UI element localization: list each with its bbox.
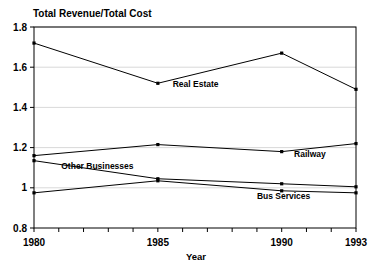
series-label: Bus Services <box>257 191 311 201</box>
series-labels-group: Real EstateRailwayOther BusinessesBus Se… <box>61 79 326 201</box>
x-tick-label: 1990 <box>271 237 294 248</box>
series-label: Other Businesses <box>61 161 134 171</box>
data-point-marker <box>354 191 357 194</box>
x-tick-label: 1993 <box>345 237 368 248</box>
data-point-marker <box>32 154 35 157</box>
data-point-marker <box>156 179 159 182</box>
line-chart: 1980198519901993 0.811.21.41.61.8 Real E… <box>0 0 376 264</box>
chart-container: 1980198519901993 0.811.21.41.61.8 Real E… <box>0 0 376 264</box>
x-axis-tick-labels: 1980198519901993 <box>23 237 368 248</box>
x-tick-label: 1985 <box>147 237 170 248</box>
y-tick-label: 1.6 <box>13 62 27 73</box>
x-axis-tickmarks <box>34 228 356 232</box>
series-label: Railway <box>294 149 326 159</box>
y-tick-label: 0.8 <box>13 223 27 234</box>
x-tick-label: 1980 <box>23 237 46 248</box>
data-point-marker <box>280 182 283 185</box>
y-tick-label: 1.8 <box>13 22 27 33</box>
series-group <box>32 41 357 194</box>
data-point-marker <box>32 159 35 162</box>
y-axis-caption: Total Revenue/Total Cost <box>33 8 152 19</box>
x-axis-title: Year <box>186 251 206 262</box>
y-tick-label: 1.2 <box>13 142 27 153</box>
data-point-marker <box>156 82 159 85</box>
data-point-marker <box>32 191 35 194</box>
data-point-marker <box>32 41 35 44</box>
data-point-marker <box>280 150 283 153</box>
data-point-marker <box>156 143 159 146</box>
data-point-marker <box>354 185 357 188</box>
y-tick-label: 1.4 <box>13 102 27 113</box>
y-tick-label: 1 <box>21 182 27 193</box>
y-axis-tick-labels: 0.811.21.41.61.8 <box>13 22 27 234</box>
y-axis-tickmarks <box>30 27 34 228</box>
series-label: Real Estate <box>173 79 219 89</box>
data-point-marker <box>354 88 357 91</box>
data-point-marker <box>354 142 357 145</box>
data-point-marker <box>280 52 283 55</box>
